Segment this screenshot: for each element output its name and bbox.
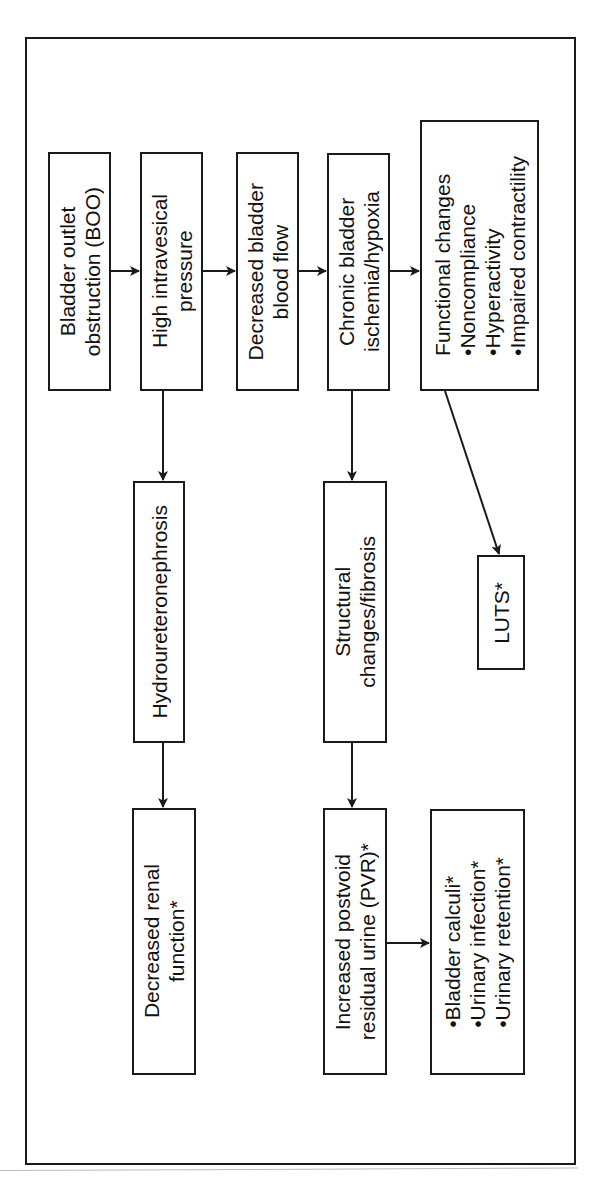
node-text: function* — [164, 864, 189, 1018]
node-bladder-outlet-obstruction: Bladder outlet obstruction (BOO) — [48, 152, 111, 391]
node-text: changes/fibrosis — [355, 536, 380, 688]
diagram-canvas: Bladder outlet obstruction (BOO) High in… — [0, 0, 590, 1177]
node-text: Decreased renal — [139, 864, 164, 1018]
node-functional-changes: Functional changes Noncompliance Hyperac… — [420, 120, 539, 391]
node-text: ischemia/hypoxia — [359, 191, 384, 352]
bullet-item: Noncompliance — [455, 156, 480, 356]
node-text: Bladder outlet — [55, 187, 80, 356]
node-text: Increased postvoid — [330, 843, 355, 1040]
node-text: Decreased bladder — [243, 183, 268, 360]
node-hydroureteronephrosis: Hydroureteronephrosis — [133, 481, 185, 743]
node-text: blood flow — [268, 183, 293, 360]
bullet-item: Urinary retention* — [490, 857, 515, 1028]
node-decreased-blood-flow: Decreased bladder blood flow — [236, 152, 299, 391]
node-text: Hydroureteronephrosis — [147, 505, 172, 719]
bullet-item: Impaired contractility — [505, 156, 530, 356]
node-text: Structural — [330, 536, 355, 688]
node-structural-changes: Structural changes/fibrosis — [323, 481, 387, 743]
bullet-item: Hyperactivity — [480, 156, 505, 356]
node-luts: LUTS* — [477, 555, 525, 670]
node-increased-pvr: Increased postvoid residual urine (PVR)* — [323, 808, 387, 1075]
node-text: obstruction (BOO) — [80, 187, 105, 356]
node-decreased-renal-function: Decreased renal function* — [132, 808, 196, 1075]
bullet-item: Bladder calculi* — [440, 857, 465, 1028]
node-text: residual urine (PVR)* — [355, 843, 380, 1040]
node-complications: Bladder calculi* Urinary infection* Urin… — [430, 809, 525, 1075]
node-chronic-ischemia: Chronic bladder ischemia/hypoxia — [327, 153, 390, 391]
node-high-intravesical-pressure: High intravesical pressure — [140, 152, 203, 391]
node-text: LUTS* — [489, 582, 514, 644]
arrow-functional-to-luts — [445, 391, 499, 554]
node-text: Chronic bladder — [334, 191, 359, 352]
node-title: Functional changes — [430, 156, 455, 356]
node-text: pressure — [172, 194, 197, 348]
node-text: High intravesical — [147, 194, 172, 348]
bullet-item: Urinary infection* — [465, 857, 490, 1028]
